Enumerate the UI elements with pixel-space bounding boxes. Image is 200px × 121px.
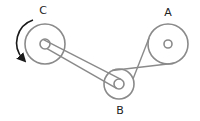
pulley-a (148, 24, 188, 64)
pulley-c-rim (25, 24, 65, 64)
belt-c-b (43, 39, 121, 88)
pulley-diagram: C A B (0, 0, 200, 121)
pulley-a-rim (148, 24, 188, 64)
label-c: C (39, 4, 47, 17)
label-b: B (116, 104, 124, 117)
label-a: A (164, 6, 172, 19)
pulley-c (25, 24, 65, 64)
pulley-a-hub (164, 40, 172, 48)
